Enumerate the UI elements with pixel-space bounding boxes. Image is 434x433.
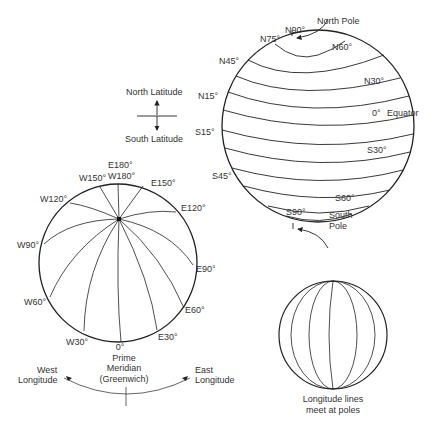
label-e30: E30° (158, 332, 178, 342)
small-globe-caption-1: Longitude lines (303, 394, 364, 404)
meridian-e120 (119, 211, 176, 219)
north-latitude-label: North Latitude (126, 87, 183, 97)
label-w180: W180° (108, 171, 136, 181)
label-n45: N45° (219, 56, 240, 66)
label-w120: W120° (40, 194, 68, 204)
meridian-ellipse-2 (309, 281, 357, 389)
latitude-line-equator (222, 130, 413, 145)
meridian-e60 (119, 219, 184, 308)
pole-point (117, 217, 121, 221)
label-w90: W90° (17, 240, 40, 250)
label-0: 0° (372, 108, 381, 118)
meridian-w60 (50, 219, 119, 297)
latitude-line-n15 (223, 110, 413, 125)
label-s60: S60° (335, 193, 355, 203)
north-pole-label: North Pole (317, 16, 360, 26)
south-pole-label-1: South (329, 210, 353, 220)
prime-label-3: (Greenwich) (99, 374, 148, 384)
latitude-line-n60 (248, 55, 384, 73)
meridian-180 (118, 184, 119, 219)
latitude-line-s45 (244, 186, 390, 198)
label-e120: E120° (181, 203, 206, 213)
meridian-e30 (119, 219, 157, 330)
west-arrowhead (66, 376, 72, 381)
meridian-0 (118, 219, 121, 342)
label-0: 0° (116, 342, 125, 352)
meridian-w90 (44, 219, 119, 244)
label-s45: S45° (212, 171, 232, 181)
latitude-globe-outline (222, 30, 414, 222)
label-s30: S30° (367, 145, 387, 155)
small-globe-outline (279, 281, 387, 389)
east-label-1: East (195, 365, 214, 375)
south-pole-arrow (298, 229, 328, 248)
label-n15: N15° (198, 91, 219, 101)
label-e60: E60° (185, 305, 205, 315)
label-e180: E180° (108, 160, 133, 170)
latitude-key: North Latitude South Latitude (125, 87, 183, 144)
label-w150: W150° (79, 173, 107, 183)
south-latitude-label: South Latitude (125, 134, 183, 144)
meridian-center (329, 281, 333, 389)
small-globe-caption-2: meet at poles (306, 405, 361, 415)
east-label-2: Longitude (195, 375, 235, 385)
label-n75: N75° (260, 34, 281, 44)
meridian-w150 (100, 187, 119, 219)
label-w60: W60° (24, 297, 47, 307)
east-arrowhead (182, 376, 188, 381)
south-pole-label-2: Pole (329, 221, 347, 231)
latitude-line-s60 (268, 206, 369, 213)
prime-label-1: Prime (112, 353, 136, 363)
label-e150: E150° (151, 178, 176, 188)
meridian-w120 (70, 203, 119, 219)
diagram-canvas: North Pole N90° N75° N60° N45° N30° N15°… (0, 0, 434, 433)
label-s15: S15° (195, 127, 215, 137)
longitude-globe: E180° W180° W150° E150° W120° E120° W90°… (17, 160, 235, 406)
label-n30: N30° (364, 76, 385, 86)
latitude-line-n30 (228, 92, 409, 108)
label-n60: N60° (332, 42, 353, 52)
label-s90: S90° (286, 207, 306, 217)
latitude-globe: North Pole N90° N75° N60° N45° N30° N15°… (195, 16, 419, 248)
meridian-w30 (84, 219, 119, 331)
latitude-line-s30 (232, 168, 403, 181)
west-label-2: Longitude (18, 375, 58, 385)
meridian-ellipse-1 (291, 281, 375, 389)
prime-label-2: Meridian (107, 363, 142, 373)
label-equator: Equator (387, 108, 419, 118)
small-globe: Longitude lines meet at poles (279, 281, 387, 415)
west-label-1: West (37, 365, 58, 375)
label-e90: E90° (196, 264, 216, 274)
label-w30: W30° (66, 337, 89, 347)
label-n90: N90° (285, 25, 306, 35)
